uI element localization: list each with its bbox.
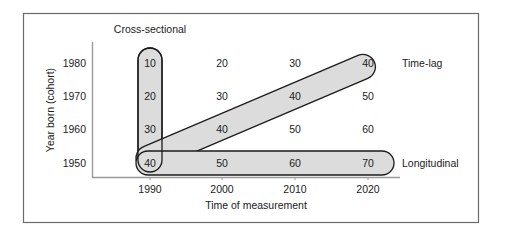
cross-sectional-label: Cross-sectional — [114, 24, 186, 35]
matrix-cell-value: 50 — [216, 158, 228, 169]
x-axis-tick-1990: 1990 — [138, 184, 161, 195]
matrix-cell-value: 60 — [289, 158, 301, 169]
matrix-cell-value: 30 — [216, 91, 228, 102]
time-lag-label: Time-lag — [402, 58, 442, 69]
matrix-cell-value: 30 — [144, 124, 156, 135]
longitudinal-label: Longitudinal — [402, 158, 459, 169]
matrix-cell-value: 70 — [362, 158, 374, 169]
matrix-cell-value: 10 — [144, 58, 156, 69]
matrix-cell-value: 50 — [289, 124, 301, 135]
matrix-cell-value: 50 — [362, 91, 374, 102]
y-axis-tick-1960: 1960 — [63, 124, 86, 135]
matrix-cell-value: 30 — [289, 58, 301, 69]
matrix-cell-value: 20 — [216, 58, 228, 69]
figure-container: 10203040203040503040506040506070 1980 19… — [0, 0, 507, 238]
y-axis-tick-1970: 1970 — [63, 91, 86, 102]
x-axis-tick-2020: 2020 — [356, 184, 379, 195]
y-axis-tick-1980: 1980 — [63, 58, 86, 69]
matrix-cell-value: 40 — [144, 158, 156, 169]
y-axis-tick-1950: 1950 — [63, 158, 86, 169]
matrix-cell-value: 40 — [362, 58, 374, 69]
matrix-cell-value: 20 — [144, 91, 156, 102]
y-axis-title: Year born (cohort) — [45, 68, 56, 152]
x-axis-tick-2000: 2000 — [210, 184, 233, 195]
x-axis-tick-2010: 2010 — [283, 184, 306, 195]
x-axis-title: Time of measurement — [205, 200, 307, 211]
matrix-cell-value: 60 — [362, 124, 374, 135]
matrix-cell-value: 40 — [216, 124, 228, 135]
longitudinal-highlight-capsule — [136, 151, 394, 175]
matrix-cell-value: 40 — [289, 91, 301, 102]
